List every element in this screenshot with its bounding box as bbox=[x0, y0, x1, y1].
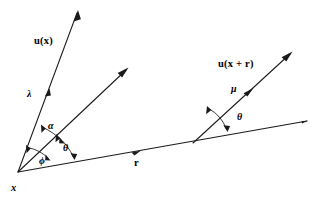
r-baseline-shaft bbox=[18, 121, 307, 172]
label-theta-left: θ bbox=[63, 142, 69, 153]
label-lambda: λ bbox=[26, 88, 32, 99]
theta-right-arc-head-bottom bbox=[223, 125, 230, 132]
label-u-of-x-plus-r: u(x + r) bbox=[218, 58, 254, 70]
theta-right-arc-head-top bbox=[206, 106, 211, 114]
middle-ray-shaft bbox=[18, 70, 127, 173]
u-of-x-arrowhead bbox=[74, 10, 81, 22]
vector-diagram-figure: u(x) λ α ϕ θ r u(x + r) μ θ x bbox=[0, 0, 314, 198]
r-baseline bbox=[18, 121, 308, 172]
label-origin-x: x bbox=[10, 182, 16, 193]
label-phi: ϕ bbox=[39, 155, 45, 166]
label-alpha: α bbox=[48, 120, 54, 131]
label-theta-right: θ bbox=[237, 111, 243, 122]
theta-left-arc-head-bottom bbox=[71, 153, 78, 160]
label-u-of-x: u(x) bbox=[34, 35, 53, 47]
phi-arc-head-left bbox=[26, 145, 31, 153]
vector-diagram-canvas: u(x) λ α ϕ θ r u(x + r) μ θ x bbox=[0, 0, 314, 198]
label-mu: μ bbox=[230, 83, 237, 94]
lambda-tick-arrowhead bbox=[45, 89, 51, 97]
label-r: r bbox=[134, 157, 139, 168]
phi-arc-head-right bbox=[45, 154, 50, 160]
alpha-arc-head-left bbox=[41, 125, 46, 133]
